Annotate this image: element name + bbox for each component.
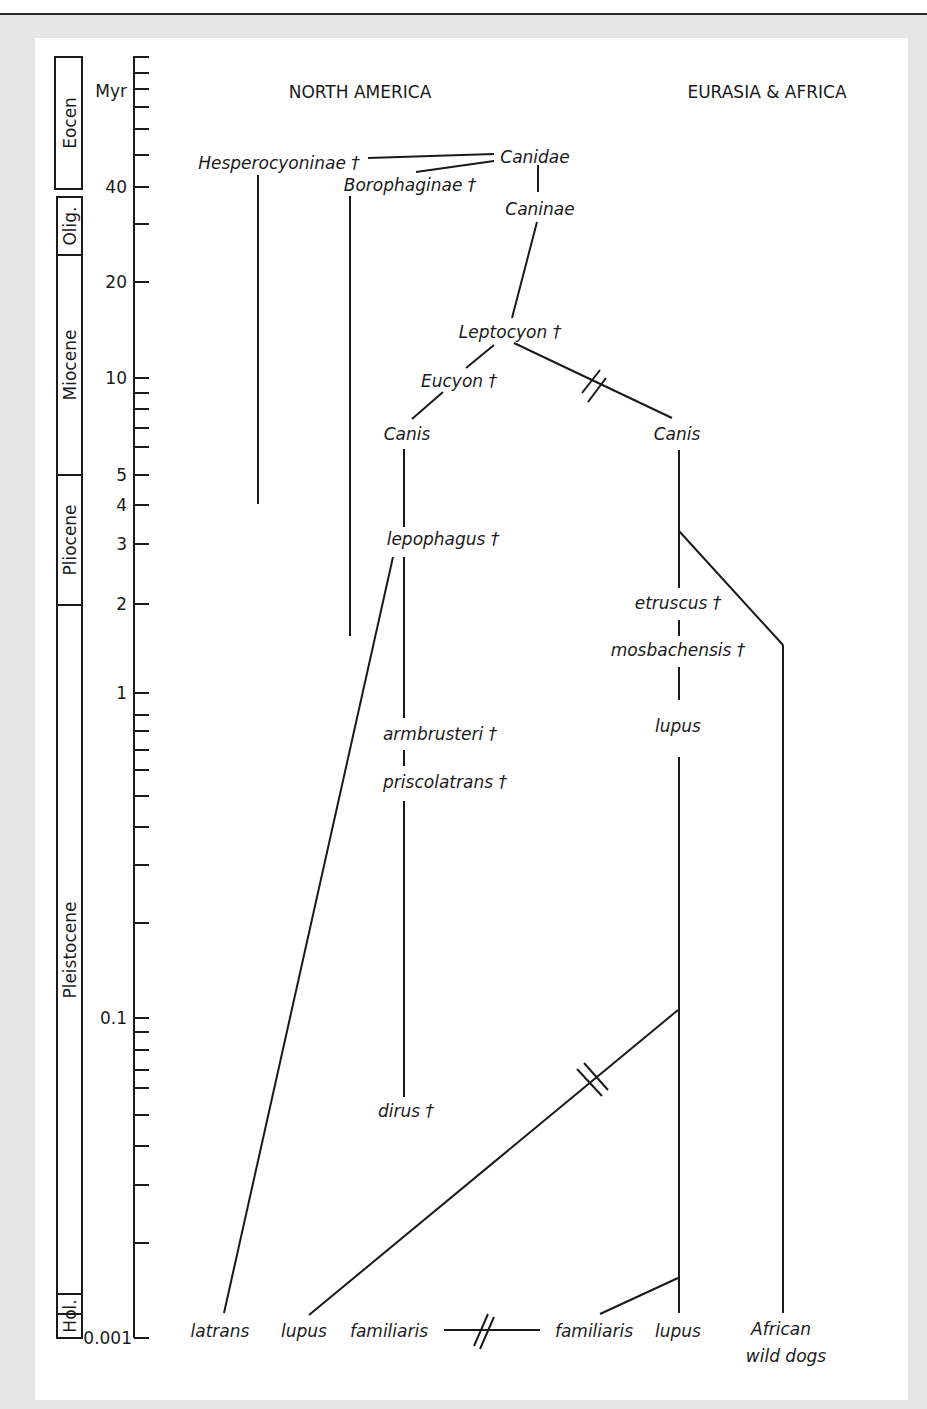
taxon-canis-eurasia: Canis [654, 424, 701, 444]
axis-unit-label: Myr [95, 81, 127, 101]
taxon-labels: Canidae Hesperocyoninae † Borophaginae †… [191, 147, 827, 1366]
region-header-eurasia-africa: EURASIA & AFRICA [687, 82, 847, 102]
tick-label-5: 5 [116, 465, 127, 485]
taxon-lupus-eurasia-mid: lupus [655, 716, 701, 736]
tick-label-0.001: 0.001 [83, 1328, 132, 1348]
taxon-etruscus: etruscus † [635, 593, 722, 613]
epoch-label-miocene: Miocene [60, 330, 80, 401]
taxon-hesperocyoninae: Hesperocyoninae † [198, 153, 360, 173]
taxon-familiaris-eurasia: familiaris [555, 1321, 633, 1341]
taxon-borophaginae: Borophaginae † [344, 175, 477, 195]
taxon-lupus-eurasia: lupus [655, 1321, 701, 1341]
epoch-label-pleistocene: Pleistocene [60, 901, 80, 998]
taxon-priscolatrans: priscolatrans † [382, 772, 507, 792]
tick-label-10: 10 [105, 368, 127, 388]
taxon-caninae: Caninae [505, 199, 574, 219]
taxon-canidae: Canidae [500, 147, 569, 167]
taxon-lepophagus: lepophagus † [387, 529, 500, 549]
tick-label-3: 3 [116, 534, 127, 554]
taxon-african-wild-dogs-line1: African [750, 1319, 811, 1339]
region-header-north-america: NORTH AMERICA [289, 82, 432, 102]
taxon-mosbachensis: mosbachensis † [611, 640, 746, 660]
tick-label-2: 2 [116, 594, 127, 614]
epoch-label-pliocene: Pliocene [60, 504, 80, 575]
taxon-dirus: dirus † [378, 1101, 435, 1121]
taxon-lupus-north-america: lupus [281, 1321, 327, 1341]
epoch-label-oligocene: Olig. [60, 206, 80, 245]
tick-label-4: 4 [116, 495, 127, 515]
time-axis-labels: Myr 40 20 10 5 4 3 2 1 0.1 0.001 [83, 81, 132, 1348]
epoch-labels: Eocen Olig. Miocene Pliocene Pleistocene… [60, 97, 80, 1333]
tick-label-0.1: 0.1 [100, 1008, 127, 1028]
tick-label-40: 40 [105, 177, 127, 197]
taxon-familiaris-north-america: familiaris [350, 1321, 428, 1341]
tick-label-20: 20 [105, 272, 127, 292]
taxon-leptocyon: Leptocyon † [459, 322, 562, 342]
taxon-latrans: latrans [191, 1321, 250, 1341]
taxon-african-wild-dogs-line2: wild dogs [746, 1346, 827, 1366]
epoch-label-eocene: Eocen [60, 97, 80, 149]
time-axis [134, 56, 149, 1338]
epoch-column [55, 57, 82, 1338]
canid-phylogeny-figure: Eocen Olig. Miocene Pliocene Pleistocene… [0, 0, 927, 1409]
dispersal-marker-familiaris [474, 1314, 494, 1349]
epoch-label-holocene: Hol. [60, 1299, 80, 1332]
taxon-canis-north-america: Canis [384, 424, 431, 444]
taxon-armbrusteri: armbrusteri † [383, 724, 498, 744]
taxon-eucyon: Eucyon † [421, 371, 498, 391]
tick-label-1: 1 [116, 683, 127, 703]
